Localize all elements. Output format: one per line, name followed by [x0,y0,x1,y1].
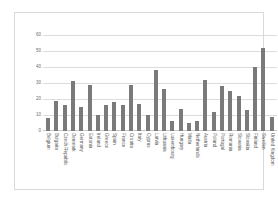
bar-slot [251,35,259,131]
bar-slot [94,35,102,131]
x-label-slot: Italy [135,133,143,201]
bar [203,80,207,131]
bar-slot [85,35,93,131]
x-axis-tick-label: Malta [187,133,192,144]
x-label-slot: Greece [102,133,110,201]
x-axis-tick-label: Finland [253,133,258,148]
x-axis-tick-label: Bulgaria [54,133,59,150]
bar [54,101,58,131]
bar-slot [77,35,85,131]
x-axis-tick-label: Greece [104,133,109,148]
bar [187,123,191,131]
bar [270,117,274,131]
x-label-slot: Latvia [152,133,160,201]
x-label-slot: Ireland [94,133,102,201]
x-label-slot: Sweden [259,133,267,201]
x-axis-tick-label: Austria [203,133,208,147]
x-label-slot: Slovakia [243,133,251,201]
bar-slot [259,35,267,131]
bar [237,96,241,131]
x-axis-tick-label: Slovenia [236,133,241,151]
x-axis-tick-label: Netherlands [195,133,200,158]
bar [146,115,150,131]
bar-slot [201,35,209,131]
chart-screenshot: 0102030405060 BelgiumBulgariaCzech Repub… [0,0,278,201]
bar [212,112,216,131]
bar [129,85,133,131]
bar [137,104,141,131]
bar-slot [135,35,143,131]
x-axis-tick-label: Lithuania [162,133,167,152]
bar-slot [226,35,234,131]
x-axis-tick-label: Czech Republic [62,133,67,165]
y-axis-tick-label: 30 [36,81,41,86]
plot-area [43,35,277,131]
y-axis-tick-label: 20 [36,97,41,102]
x-label-slot: Slovenia [234,133,242,201]
bar [162,89,166,131]
x-axis-tick-label: Estonia [87,133,92,148]
bar [253,67,257,131]
x-label-slot: Portugal [218,133,226,201]
bar [96,115,100,131]
x-axis-tick-label: Sweden [261,133,266,150]
x-label-slot: Czech Republic [61,133,69,201]
bar [228,91,232,131]
x-axis-tick-label: Germany [79,133,84,152]
bar [170,121,174,131]
x-label-slot: Romania [226,133,234,201]
x-axis-tick-label: Denmark [71,133,76,152]
y-axis-tick-label: 50 [36,49,41,54]
bar [121,105,125,131]
bar-slot [234,35,242,131]
x-axis-tick-label: Portugal [220,133,225,150]
bar [220,86,224,131]
bar-series [43,35,277,131]
y-axis-tick-label: 40 [36,65,41,70]
bar-slot [110,35,118,131]
x-label-slot: United Kingdom [268,133,276,201]
bar [88,85,92,131]
x-label-slot: Luxembourg [168,133,176,201]
bar-slot [210,35,218,131]
bar-slot [52,35,60,131]
bar-slot [127,35,135,131]
x-label-slot: Austria [201,133,209,201]
x-label-slot: Spain [110,133,118,201]
bar-slot [143,35,151,131]
x-axis-tick-label: United Kingdom [269,133,274,166]
x-axis-tick-label: Poland [211,133,216,147]
bar [46,118,50,131]
x-label-slot: Lithuania [160,133,168,201]
x-label-slot: Estonia [85,133,93,201]
x-label-slot: Poland [210,133,218,201]
x-axis-tick-label: Luxembourg [170,133,175,159]
bar [63,105,67,131]
x-label-slot: Netherlands [193,133,201,201]
x-label-slot: Croatia [127,133,135,201]
bar-slot [102,35,110,131]
x-label-slot: Hungary [177,133,185,201]
bar-slot [185,35,193,131]
x-label-slot: Denmark [69,133,77,201]
x-label-slot: Germany [77,133,85,201]
y-axis-tick-label: 60 [36,33,41,38]
bar [104,105,108,131]
x-axis-tick-label: Italy [137,133,142,141]
x-axis-tick-label: Cyprus [145,133,150,148]
figure-frame: 0102030405060 BelgiumBulgariaCzech Repub… [14,12,264,190]
y-axis-tick-labels: 0102030405060 [29,35,43,131]
bar [71,81,75,131]
bar-slot [193,35,201,131]
bar [245,110,249,131]
x-axis-tick-label: Latvia [154,133,159,145]
bar [112,102,116,131]
bar-slot [218,35,226,131]
bar-slot [44,35,52,131]
x-label-slot: Finland [251,133,259,201]
x-axis-tick-label: Slovakia [245,133,250,150]
bar [154,70,158,131]
x-axis-tick-label: Hungary [178,133,183,150]
bar-slot [177,35,185,131]
x-axis-tick-label: Croatia [129,133,134,148]
